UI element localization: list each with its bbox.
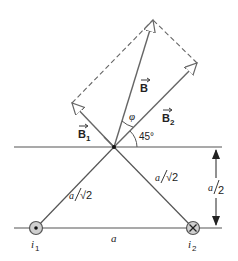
label-base-a: a (111, 232, 117, 244)
slant-line-left (36, 147, 114, 228)
svg-text:1: 1 (35, 244, 40, 253)
svg-text:i: i (31, 238, 34, 250)
label-i2: i 2 (188, 238, 197, 253)
svg-text:B: B (78, 128, 86, 140)
angle-arc-45 (130, 131, 137, 147)
svg-text:a: a (155, 172, 160, 183)
dimension-arrow-up-icon (212, 149, 220, 159)
svg-text:a: a (208, 182, 213, 193)
wire-i2 (187, 222, 200, 235)
label-left-slant: a √2 (69, 188, 92, 201)
label-45-degrees: 45° (139, 131, 154, 142)
label-phi: φ (129, 110, 135, 122)
svg-text:√2: √2 (80, 189, 92, 201)
svg-text:2: 2 (170, 118, 175, 127)
wire-i1 (30, 222, 43, 235)
svg-text:a: a (69, 190, 74, 201)
svg-text:i: i (188, 238, 191, 250)
dashed-side-right (153, 20, 197, 63)
label-i1: i 1 (31, 238, 40, 253)
field-point (112, 145, 116, 149)
diagram-canvas: B B 2 B 1 φ 45° a √2 a √2 a a 2 i 1 i 2 (0, 0, 238, 261)
label-B1: B 1 (78, 124, 91, 143)
dot-out-of-page-icon (34, 226, 38, 230)
svg-text:1: 1 (86, 134, 91, 143)
label-right-slant: a √2 (155, 170, 178, 183)
svg-text:2: 2 (218, 184, 224, 196)
svg-text:√2: √2 (166, 171, 178, 183)
vector-B1 (72, 103, 114, 147)
label-B2: B 2 (162, 108, 175, 127)
svg-text:B: B (140, 82, 148, 94)
svg-text:2: 2 (192, 244, 197, 253)
slant-line-right (114, 147, 193, 228)
svg-text:B: B (162, 112, 170, 124)
label-B: B (140, 78, 150, 94)
physics-diagram: B B 2 B 1 φ 45° a √2 a √2 a a 2 i 1 i 2 (0, 0, 238, 261)
dimension-arrow-down-icon (212, 216, 220, 226)
